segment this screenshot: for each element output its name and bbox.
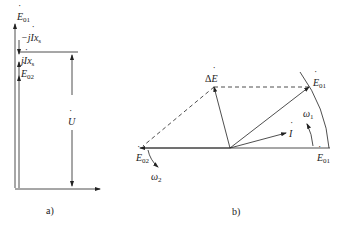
caption-a: a) [46,205,54,216]
delta-e-vector [214,87,230,148]
label-i: I [289,129,292,139]
label-e01-rotated: E01 [313,78,326,90]
label-delta-e: ΔE [205,74,218,84]
e01-rotated-vector [230,87,309,148]
omega2-arrow [148,150,158,167]
label-minus-jix: −jIxs [21,33,41,45]
dashed-line-left [143,87,214,146]
label-omega2: ω2 [151,172,162,184]
label-u: U [67,117,76,127]
figure-b-diagram [140,72,330,167]
caption-b: b) [232,206,240,217]
current-vector [230,133,286,148]
omega1-arrow [307,124,313,146]
label-e02-b: E02 [136,153,149,165]
label-omega1: ω1 [303,109,314,121]
label-e01-b: E01 [317,153,330,165]
label-e02-a: E02 [21,69,34,81]
label-e01-a: E01 [17,12,30,24]
phasor-diagrams [0,0,338,226]
